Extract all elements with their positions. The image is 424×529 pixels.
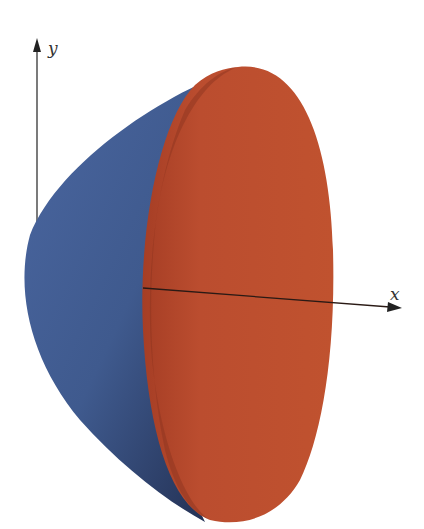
paraboloid-figure: y x xyxy=(0,0,424,529)
x-axis-label: x xyxy=(390,284,400,304)
y-axis-label: y xyxy=(47,38,58,58)
